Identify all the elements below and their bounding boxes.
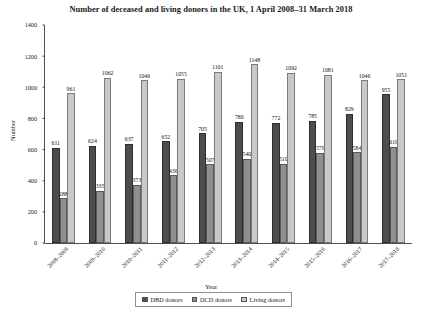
y-tick-label: 200 (0, 208, 37, 215)
bar (214, 72, 222, 243)
bar (60, 198, 68, 243)
bar-value-label: 1148 (246, 57, 264, 63)
x-tick-label: 2013–2014 (222, 246, 253, 277)
bar (162, 141, 170, 243)
x-tick-label: 2014–2015 (259, 246, 290, 277)
chart-title: Number of deceased and living donors in … (0, 5, 422, 14)
bar (104, 78, 112, 243)
bar-value-label: 772 (267, 115, 285, 121)
bar-value-label: 624 (84, 138, 102, 144)
x-tick-label: 2011–2012 (149, 246, 180, 277)
bar-value-label: 1055 (172, 71, 190, 77)
bar (67, 93, 75, 243)
bar (382, 94, 390, 243)
bar-value-label: 637 (120, 136, 138, 142)
bar (361, 80, 369, 243)
legend-item[interactable]: DBD donors (142, 296, 183, 303)
x-tick-label: 2009–2010 (75, 246, 106, 277)
bar (353, 152, 361, 243)
bar (280, 164, 288, 243)
bar (251, 64, 259, 243)
bar-value-label: 780 (230, 114, 248, 120)
x-tick-label: 2015–2016 (295, 246, 326, 277)
y-axis-tick-labels: 0200400600800100012001400 (0, 0, 41, 320)
x-tick-label: 2017–2018 (369, 246, 400, 277)
x-tick-label: 2010–2011 (112, 246, 143, 277)
legend-label: DBD donors (151, 296, 183, 303)
x-axis-title: Year (0, 283, 422, 290)
bar (235, 122, 243, 243)
bar-value-label: 1081 (319, 67, 337, 73)
x-tick-label: 2012–2013 (185, 246, 216, 277)
bar-value-label: 652 (157, 134, 175, 140)
bar (199, 133, 207, 243)
y-tick-label: 600 (0, 146, 37, 153)
bar-value-label: 611 (47, 140, 65, 146)
y-tick-label: 0 (0, 239, 37, 246)
bar (309, 121, 317, 243)
bar (243, 159, 251, 243)
bar (316, 153, 324, 243)
bar (346, 114, 354, 243)
legend-swatch-icon (192, 297, 198, 303)
bar-value-label: 955 (377, 87, 395, 93)
y-tick-label: 400 (0, 177, 37, 184)
bar (287, 73, 295, 243)
bar (324, 75, 332, 243)
y-tick-label: 1000 (0, 84, 37, 91)
y-tick-label: 1200 (0, 53, 37, 60)
bar (390, 147, 398, 243)
bar-value-label: 1051 (392, 72, 410, 78)
bar (133, 185, 141, 243)
legend-label: Living donors (250, 296, 286, 303)
bar (177, 79, 185, 243)
legend-item[interactable]: Living donors (241, 296, 285, 303)
x-tick-label: 2016–2017 (332, 246, 363, 277)
legend-item[interactable]: DCD donors (192, 296, 233, 303)
chart-legend: DBD donorsDCD donorsLiving donors (135, 292, 292, 307)
bar-value-label: 785 (304, 113, 322, 119)
bar-value-label: 961 (62, 86, 80, 92)
bar-value-label: 1062 (99, 70, 117, 76)
bar (125, 144, 133, 243)
x-tick-label: 2008–2009 (38, 246, 69, 277)
bar (170, 175, 178, 243)
y-axis-title: Number (9, 111, 16, 151)
bar (141, 80, 149, 243)
bar-value-label: 1046 (136, 73, 154, 79)
bar-value-label: 829 (341, 106, 359, 112)
bar (397, 79, 405, 243)
bar-value-label: 1092 (282, 65, 300, 71)
y-tick-label: 800 (0, 115, 37, 122)
legend-label: DCD donors (200, 296, 232, 303)
bar-value-label: 705 (194, 126, 212, 132)
bar (96, 191, 104, 243)
bar (89, 146, 97, 243)
plot-area: 6112889616243351062637373104665243610557… (45, 25, 412, 243)
bar-chart: Number of deceased and living donors in … (0, 0, 422, 320)
bar-value-label: 1046 (356, 73, 374, 79)
legend-swatch-icon (142, 297, 148, 303)
bar (206, 164, 214, 243)
bar-value-label: 1101 (209, 64, 227, 70)
legend-swatch-icon (241, 297, 247, 303)
y-tick-label: 1400 (0, 21, 37, 28)
bar (272, 123, 280, 243)
